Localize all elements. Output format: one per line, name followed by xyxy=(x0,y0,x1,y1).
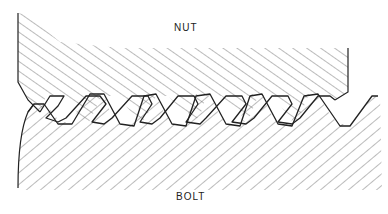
bolt-label: BOLT xyxy=(176,191,205,202)
nut-label: NUT xyxy=(174,22,198,33)
thread-diagram: NUT BOLT xyxy=(0,0,388,214)
